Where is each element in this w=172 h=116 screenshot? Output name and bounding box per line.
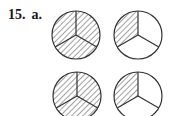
fraction-circles-figure [0,0,172,116]
divider-line [138,35,159,47]
circle-top-left [52,11,100,59]
divider-line [138,96,159,108]
circle-bottom-left [53,72,101,116]
circle-top-right [114,11,162,59]
circle-bottom-right [114,72,162,116]
